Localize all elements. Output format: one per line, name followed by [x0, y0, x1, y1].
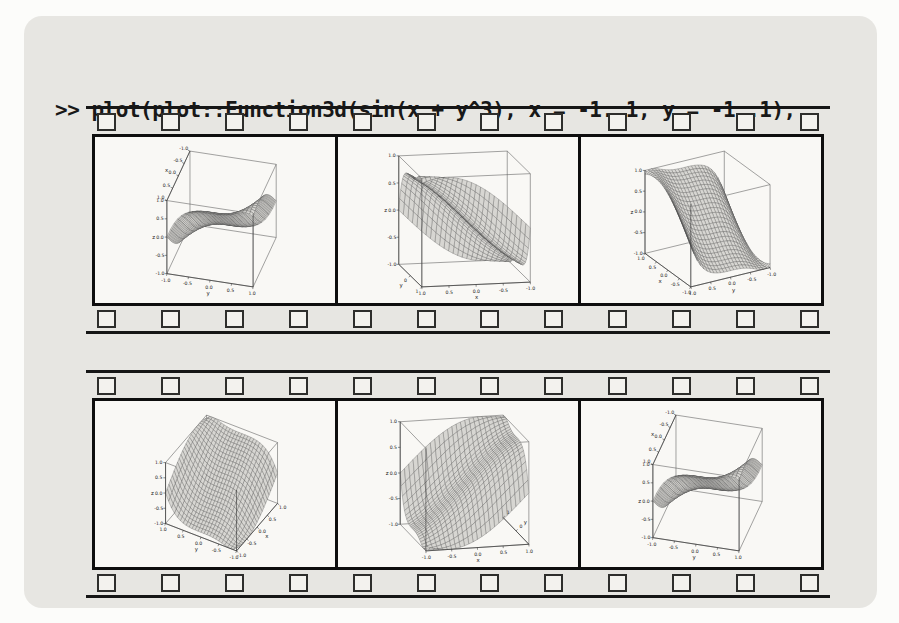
- svg-text:y: y: [692, 554, 696, 561]
- sprocket-hole: [97, 377, 116, 395]
- plot-frame-4: 1.00.50.0-0.5-1.0x1.00.50.0-0.5-1.0y1.00…: [92, 398, 338, 570]
- sprocket-hole: [736, 377, 755, 395]
- surface-plot-1: 1.00.50.0-0.5-1.0x-1.0-0.50.00.51.0y1.00…: [95, 137, 335, 303]
- svg-text:0.0: 0.0: [474, 552, 481, 557]
- sprocket-hole: [800, 113, 819, 131]
- svg-text:x: x: [477, 557, 481, 563]
- svg-text:-1.0: -1.0: [389, 522, 398, 527]
- sprocket-hole: [97, 574, 116, 592]
- sprocket-hole: [161, 310, 180, 328]
- svg-text:0.0: 0.0: [691, 549, 698, 554]
- svg-text:1.0: 1.0: [390, 419, 397, 424]
- svg-text:-1.0: -1.0: [647, 542, 656, 547]
- plot-frame-5: -1.0-0.50.00.51.0x10y1.00.50.0-0.5-1.0z: [338, 398, 581, 570]
- svg-text:0.5: 0.5: [163, 183, 170, 188]
- sprocket-hole: [672, 310, 691, 328]
- sprocket-hole: [480, 310, 499, 328]
- sprocket-hole: [353, 574, 372, 592]
- sprocket-hole: [800, 574, 819, 592]
- svg-text:-1.0: -1.0: [422, 555, 431, 560]
- svg-text:-0.5: -0.5: [642, 517, 651, 522]
- svg-text:-0.5: -0.5: [634, 230, 643, 235]
- sprocket-hole: [225, 310, 244, 328]
- svg-text:-0.5: -0.5: [671, 282, 680, 287]
- sprocket-hole: [417, 574, 436, 592]
- filmstrip-edge-line: [86, 331, 830, 334]
- svg-text:-0.5: -0.5: [660, 422, 669, 427]
- sprocket-hole: [800, 377, 819, 395]
- svg-text:x: x: [475, 294, 479, 300]
- svg-text:0.5: 0.5: [634, 189, 641, 194]
- svg-text:0.5: 0.5: [177, 534, 184, 539]
- svg-text:x: x: [265, 533, 269, 539]
- svg-text:1: 1: [416, 289, 419, 294]
- sprocket-hole: [161, 574, 180, 592]
- svg-text:z: z: [638, 498, 641, 504]
- svg-text:-1.0: -1.0: [161, 278, 170, 283]
- sprocket-hole: [289, 113, 308, 131]
- sprocket-hole: [544, 377, 563, 395]
- surface-plot-2: 1.00.50.0-0.5-1.0x01y1.00.50.0-0.5-1.0z: [338, 137, 578, 303]
- svg-text:-1.0: -1.0: [156, 271, 165, 276]
- svg-text:-0.5: -0.5: [389, 496, 398, 501]
- filmstrip-bottom: 1.00.50.0-0.5-1.0x1.00.50.0-0.5-1.0y1.00…: [86, 370, 830, 598]
- svg-text:0.0: 0.0: [642, 499, 649, 504]
- sprocket-hole: [608, 377, 627, 395]
- svg-text:1.0: 1.0: [388, 153, 395, 158]
- svg-text:0.5: 0.5: [649, 265, 656, 270]
- plot-frame-2: 1.00.50.0-0.5-1.0x01y1.00.50.0-0.5-1.0z: [338, 134, 581, 306]
- svg-text:0.5: 0.5: [390, 445, 397, 450]
- svg-text:1.0: 1.0: [156, 198, 163, 203]
- sprocket-hole: [225, 377, 244, 395]
- plot-frame-3: 1.00.50.0-0.5-1.0x1.00.50.0-0.5-1.0y1.00…: [581, 134, 824, 306]
- svg-text:-1.0: -1.0: [230, 555, 239, 560]
- sprocket-hole: [289, 574, 308, 592]
- svg-text:-1.0: -1.0: [179, 146, 188, 151]
- sprocket-row: [86, 306, 830, 331]
- svg-text:x: x: [659, 278, 663, 284]
- frames-row: 1.00.50.0-0.5-1.0x-1.0-0.50.00.51.0y1.00…: [92, 134, 824, 306]
- svg-text:-0.5: -0.5: [212, 548, 221, 553]
- svg-text:-0.5: -0.5: [387, 235, 396, 240]
- sprocket-hole: [544, 310, 563, 328]
- svg-text:0.0: 0.0: [155, 491, 162, 496]
- svg-text:0: 0: [404, 278, 407, 283]
- svg-text:-0.5: -0.5: [174, 158, 183, 163]
- svg-text:1.0: 1.0: [418, 291, 425, 296]
- sprocket-hole: [736, 113, 755, 131]
- svg-text:0.5: 0.5: [269, 517, 276, 522]
- sprocket-hole: [480, 377, 499, 395]
- svg-text:1.0: 1.0: [734, 555, 741, 560]
- sprocket-hole: [353, 113, 372, 131]
- sprocket-hole: [736, 310, 755, 328]
- svg-text:0.5: 0.5: [446, 290, 453, 295]
- svg-text:y: y: [195, 546, 199, 553]
- svg-text:-0.5: -0.5: [448, 554, 457, 559]
- sprocket-hole: [480, 574, 499, 592]
- svg-text:0.0: 0.0: [655, 434, 662, 439]
- surface-plot-5: -1.0-0.50.00.51.0x10y1.00.50.0-0.5-1.0z: [338, 401, 578, 567]
- sprocket-hole: [672, 377, 691, 395]
- svg-text:0.5: 0.5: [709, 286, 716, 291]
- svg-text:0: 0: [519, 524, 522, 529]
- sprocket-hole: [608, 113, 627, 131]
- sprocket-hole: [353, 377, 372, 395]
- svg-text:0.0: 0.0: [728, 281, 735, 286]
- svg-text:1.0: 1.0: [642, 462, 649, 467]
- sprocket-hole: [289, 377, 308, 395]
- svg-text:y: y: [524, 519, 528, 526]
- svg-text:1.0: 1.0: [526, 549, 533, 554]
- sprocket-hole: [800, 310, 819, 328]
- svg-text:0.0: 0.0: [473, 289, 480, 294]
- filmstrip-top: 1.00.50.0-0.5-1.0x-1.0-0.50.00.51.0y1.00…: [86, 106, 830, 334]
- sprocket-hole: [736, 574, 755, 592]
- svg-text:-0.5: -0.5: [669, 545, 678, 550]
- plot-frame-1: 1.00.50.0-0.5-1.0x-1.0-0.50.00.51.0y1.00…: [92, 134, 338, 306]
- sprocket-hole: [353, 310, 372, 328]
- svg-text:z: z: [384, 207, 387, 213]
- svg-text:0.5: 0.5: [156, 216, 163, 221]
- surface-plot-3: 1.00.50.0-0.5-1.0x1.00.50.0-0.5-1.0y1.00…: [581, 137, 821, 303]
- sprocket-hole: [608, 574, 627, 592]
- sprocket-hole: [544, 574, 563, 592]
- svg-text:0.0: 0.0: [156, 235, 163, 240]
